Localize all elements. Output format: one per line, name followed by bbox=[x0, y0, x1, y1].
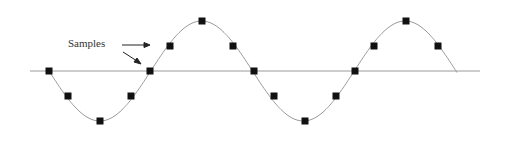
sample-marker bbox=[435, 43, 442, 50]
sample-marker bbox=[333, 93, 340, 100]
sample-marker bbox=[352, 68, 359, 75]
sample-marker bbox=[230, 43, 237, 50]
sample-marker bbox=[65, 93, 72, 100]
sample-marker bbox=[251, 68, 258, 75]
annotation-arrows bbox=[122, 43, 150, 65]
sampled-sine-diagram bbox=[0, 0, 509, 142]
sample-marker bbox=[271, 93, 278, 100]
samples-label: Samples bbox=[68, 37, 105, 49]
sample-marker bbox=[371, 43, 378, 50]
sample-marker bbox=[128, 93, 135, 100]
sample-marker bbox=[199, 18, 206, 25]
sample-marker bbox=[97, 118, 104, 125]
sample-marker bbox=[46, 68, 53, 75]
sample-marker bbox=[403, 18, 410, 25]
sample-marker bbox=[302, 118, 309, 125]
sample-marker bbox=[167, 43, 174, 50]
sample-marker bbox=[147, 68, 154, 75]
